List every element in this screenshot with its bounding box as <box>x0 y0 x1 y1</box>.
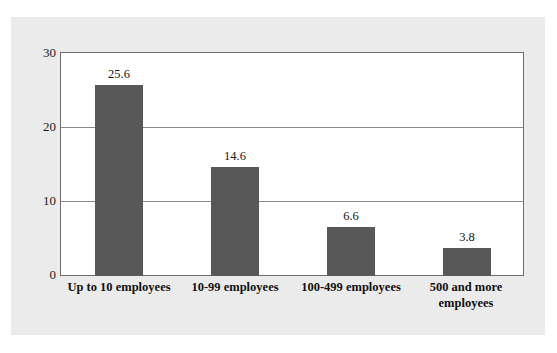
x-label-10-99-employees: 10-99 employees <box>176 279 294 295</box>
y-tick-label-30: 30 <box>22 45 56 61</box>
y-tick-label-10: 10 <box>22 193 56 209</box>
cut-off-title-remnant <box>0 0 557 10</box>
x-axis: Up to 10 employees 10-99 employees 100-4… <box>60 279 524 329</box>
y-tick-label-0: 0 <box>22 267 56 283</box>
x-label-500-and-more-employees: 500 and more employees <box>408 279 524 311</box>
x-label-500-and-more-employees-line1: 500 and more <box>408 279 524 295</box>
gridline-10 <box>61 201 523 202</box>
y-tick-label-20: 20 <box>22 119 56 135</box>
x-label-500-and-more-employees-line2: employees <box>408 295 524 311</box>
y-axis: 30 20 10 0 <box>15 52 56 276</box>
gridline-20 <box>61 127 523 128</box>
x-label-100-499-employees: 100-499 employees <box>292 279 410 295</box>
x-label-up-to-10-employees: Up to 10 employees <box>60 279 178 295</box>
chart-panel: 30 20 10 0 25.6 14.6 6.6 3.8 Up to 10 em… <box>11 17 545 335</box>
plot-area <box>60 52 524 276</box>
